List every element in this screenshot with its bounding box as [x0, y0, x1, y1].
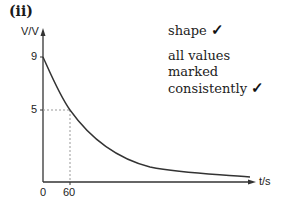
y-tick-label-5: 5: [31, 103, 37, 115]
x-tick-label-60: 60: [63, 186, 75, 198]
decay-curve: [43, 57, 250, 177]
x-axis-arrow-icon: [248, 180, 256, 185]
y-axis-label: V/V: [21, 25, 39, 37]
x-tick-label-0: 0: [40, 186, 46, 198]
x-axis-label: t/s: [259, 175, 271, 187]
y-axis-arrow-icon: [41, 28, 46, 36]
chart-canvas: [0, 0, 281, 201]
y-tick-label-9: 9: [31, 50, 37, 62]
